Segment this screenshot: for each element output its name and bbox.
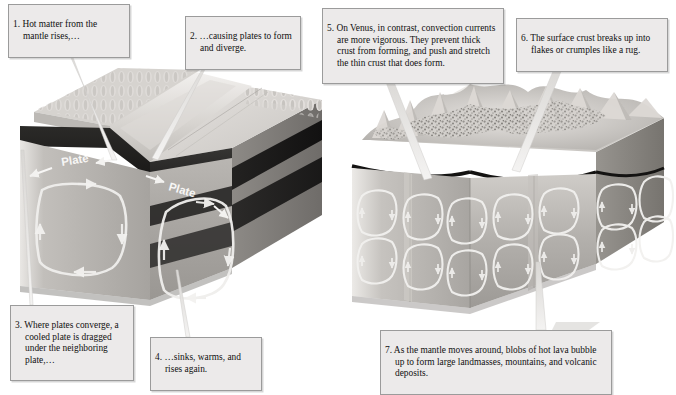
callout-5[interactable]: 5. On Venus, in contrast, convection cur… — [322, 8, 504, 84]
callout-4[interactable]: 4. …sinks, warms, and rises again. — [150, 337, 262, 391]
callout-6[interactable]: 6. The surface crust breaks up into flak… — [516, 18, 668, 72]
callout-5-text: 5. On Venus, in contrast, convection cur… — [327, 23, 498, 69]
callout-6-text: 6. The surface crust breaks up into flak… — [521, 33, 662, 56]
callout-7-text: 7. As the mantle moves around, blobs of … — [385, 345, 606, 379]
callout-1[interactable]: 1. Hot matter from the mantle rises,… — [8, 4, 130, 58]
earth-block: Plate Plate — [20, 68, 322, 306]
callout-1-text: 1. Hot matter from the mantle rises,… — [13, 19, 124, 42]
callout-3-text: 3. Where plates converge, a cooled plate… — [15, 320, 128, 366]
callout-2[interactable]: 2. …causing plates to form and diverge. — [185, 16, 301, 70]
callout-3[interactable]: 3. Where plates converge, a cooled plate… — [10, 305, 134, 381]
callout-7[interactable]: 7. As the mantle moves around, blobs of … — [380, 330, 612, 395]
callout-4-text: 4. …sinks, warms, and rises again. — [155, 352, 256, 375]
callout-2-text: 2. …causing plates to form and diverge. — [190, 31, 295, 54]
